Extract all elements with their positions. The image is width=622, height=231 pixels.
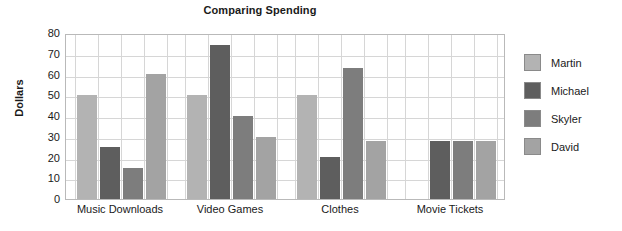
plot-area <box>65 34 505 200</box>
y-tick-label: 0 <box>26 194 60 205</box>
gridline-vertical <box>405 35 406 199</box>
gridline-vertical <box>295 35 296 199</box>
x-tick-label: Music Downloads <box>65 203 175 216</box>
legend-swatch-icon <box>524 138 541 155</box>
bar <box>123 168 143 199</box>
y-tick-label: 50 <box>26 90 60 101</box>
gridline-vertical <box>98 35 99 199</box>
legend-label: Martin <box>551 57 582 69</box>
y-axis-label: Dollars <box>13 58 25 138</box>
y-tick-label: 70 <box>26 49 60 60</box>
bar <box>297 95 317 199</box>
y-axis-tick-labels: 80706050403020100 <box>26 34 60 200</box>
bar <box>210 45 230 199</box>
bar <box>320 157 340 199</box>
legend-item[interactable]: Michael <box>524 81 620 100</box>
y-tick-label: 30 <box>26 132 60 143</box>
y-tick-label: 60 <box>26 70 60 81</box>
bar <box>100 147 120 199</box>
bar <box>476 141 496 199</box>
gridline-vertical <box>231 35 232 199</box>
gridline-horizontal <box>66 77 504 78</box>
legend-label: Skyler <box>551 113 582 125</box>
bar-chart: Comparing Spending Dollars 8070605040302… <box>0 0 622 231</box>
bar <box>146 74 166 199</box>
gridline-vertical <box>277 35 278 199</box>
gridline-vertical <box>167 35 168 199</box>
chart-legend: MartinMichaelSkylerDavid <box>524 53 620 165</box>
bar <box>233 116 253 199</box>
gridline-vertical <box>318 35 319 199</box>
gridline-vertical <box>208 35 209 199</box>
y-tick-label: 10 <box>26 173 60 184</box>
bar <box>430 141 450 199</box>
bar <box>343 68 363 199</box>
x-tick-label: Movie Tickets <box>395 203 505 216</box>
legend-item[interactable]: David <box>524 137 620 156</box>
legend-label: Michael <box>551 85 589 97</box>
gridline-vertical <box>185 35 186 199</box>
chart-title: Comparing Spending <box>0 4 520 16</box>
legend-item[interactable]: Martin <box>524 53 620 72</box>
legend-swatch-icon <box>524 110 541 127</box>
gridline-horizontal <box>66 56 504 57</box>
gridline-horizontal <box>66 97 504 98</box>
legend-label: David <box>551 141 579 153</box>
gridline-vertical <box>451 35 452 199</box>
y-tick-label: 20 <box>26 153 60 164</box>
gridline-vertical <box>428 35 429 199</box>
gridline-horizontal <box>66 139 504 140</box>
gridline-horizontal <box>66 118 504 119</box>
gridline-vertical <box>387 35 388 199</box>
y-tick-label: 80 <box>26 28 60 39</box>
x-tick-label: Clothes <box>285 203 395 216</box>
legend-item[interactable]: Skyler <box>524 109 620 128</box>
gridline-vertical <box>254 35 255 199</box>
gridline-vertical <box>364 35 365 199</box>
x-tick-label: Video Games <box>175 203 285 216</box>
y-tick-label: 40 <box>26 111 60 122</box>
bar <box>453 141 473 199</box>
bar <box>256 137 276 199</box>
gridline-vertical <box>474 35 475 199</box>
gridline-vertical <box>341 35 342 199</box>
gridline-vertical <box>75 35 76 199</box>
bar <box>187 95 207 199</box>
legend-swatch-icon <box>524 54 541 71</box>
bar <box>366 141 386 199</box>
x-axis-tick-labels: Music DownloadsVideo GamesClothesMovie T… <box>65 203 505 223</box>
bar <box>77 95 97 199</box>
gridline-vertical <box>497 35 498 199</box>
gridline-vertical <box>121 35 122 199</box>
legend-swatch-icon <box>524 82 541 99</box>
gridline-vertical <box>144 35 145 199</box>
